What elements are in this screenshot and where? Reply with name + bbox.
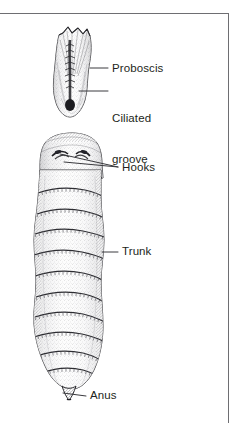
figure-root: Proboscis Ciliated groove Hooks Trunk An… [0,0,246,423]
ciliated-groove-pore [65,99,75,111]
label-ciliated-groove: Ciliated groove [112,85,151,193]
label-ciliated-groove-line1: Ciliated [112,112,151,126]
label-proboscis: Proboscis [112,62,163,76]
trunk-group [30,168,108,394]
label-trunk: Trunk [122,245,151,259]
label-anus: Anus [90,389,117,403]
label-hooks: Hooks [122,161,155,175]
